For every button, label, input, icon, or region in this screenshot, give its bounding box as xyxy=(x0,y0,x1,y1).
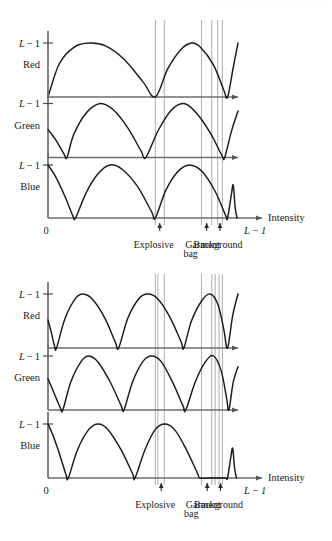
curve-blue xyxy=(48,165,237,220)
axis-arrow-blue xyxy=(256,475,262,480)
x-axis-label: Intensity xyxy=(268,212,305,223)
region-marker-arrow-2 xyxy=(205,483,210,488)
axis-arrow-green xyxy=(232,155,238,160)
region-label-3: Background xyxy=(194,239,243,250)
channel-label-red: Red xyxy=(23,310,41,321)
level-label-red: L−1 xyxy=(18,289,40,300)
region-marker-arrow-1 xyxy=(157,223,162,228)
figure-bottom: L−1RedL−1GreenL−1BlueExplosiveGarmentbag… xyxy=(0,262,332,541)
region-marker-arrow-2 xyxy=(204,223,209,228)
level-label-green: L−1 xyxy=(18,351,40,362)
intensity-profile-chart-top: L−1RedL−1GreenL−1BlueExplosiveGarmentbag… xyxy=(0,0,332,262)
channel-label-red: Red xyxy=(23,59,41,70)
axis-end-label: L−1 xyxy=(243,485,266,496)
figure-page: L−1RedL−1GreenL−1BlueExplosiveGarmentbag… xyxy=(0,0,332,541)
channel-label-blue: Blue xyxy=(20,440,40,451)
level-label-blue: L−1 xyxy=(18,160,40,171)
region-label-1: Explosive xyxy=(135,499,176,510)
axis-arrow-red xyxy=(232,94,238,99)
channel-label-green: Green xyxy=(14,120,40,131)
level-label-blue: L−1 xyxy=(18,419,40,430)
region-marker-arrow-3 xyxy=(218,223,223,228)
region-marker-arrow-1 xyxy=(159,483,164,488)
intensity-profile-chart-bottom: L−1RedL−1GreenL−1BlueExplosiveGarmentbag… xyxy=(0,262,332,541)
curve-red xyxy=(48,294,238,350)
level-label-red: L−1 xyxy=(18,38,40,49)
curve-green xyxy=(48,356,238,412)
axis-end-label: L−1 xyxy=(243,225,266,236)
curve-red xyxy=(48,43,238,98)
x-axis-label: Intensity xyxy=(268,472,305,483)
region-label-1: Explosive xyxy=(134,239,175,250)
channel-label-blue: Blue xyxy=(20,181,40,192)
region-label-3: Background xyxy=(194,499,243,510)
curve-blue xyxy=(48,424,236,480)
level-label-green: L−1 xyxy=(18,98,40,109)
curve-green xyxy=(48,103,238,159)
axis-arrow-blue xyxy=(256,215,262,220)
axis-arrow-red xyxy=(232,345,238,350)
origin-label: 0 xyxy=(43,485,48,496)
channel-label-green: Green xyxy=(14,372,40,383)
axis-arrow-green xyxy=(232,407,238,412)
origin-label: 0 xyxy=(43,225,48,236)
figure-top: L−1RedL−1GreenL−1BlueExplosiveGarmentbag… xyxy=(0,0,332,262)
